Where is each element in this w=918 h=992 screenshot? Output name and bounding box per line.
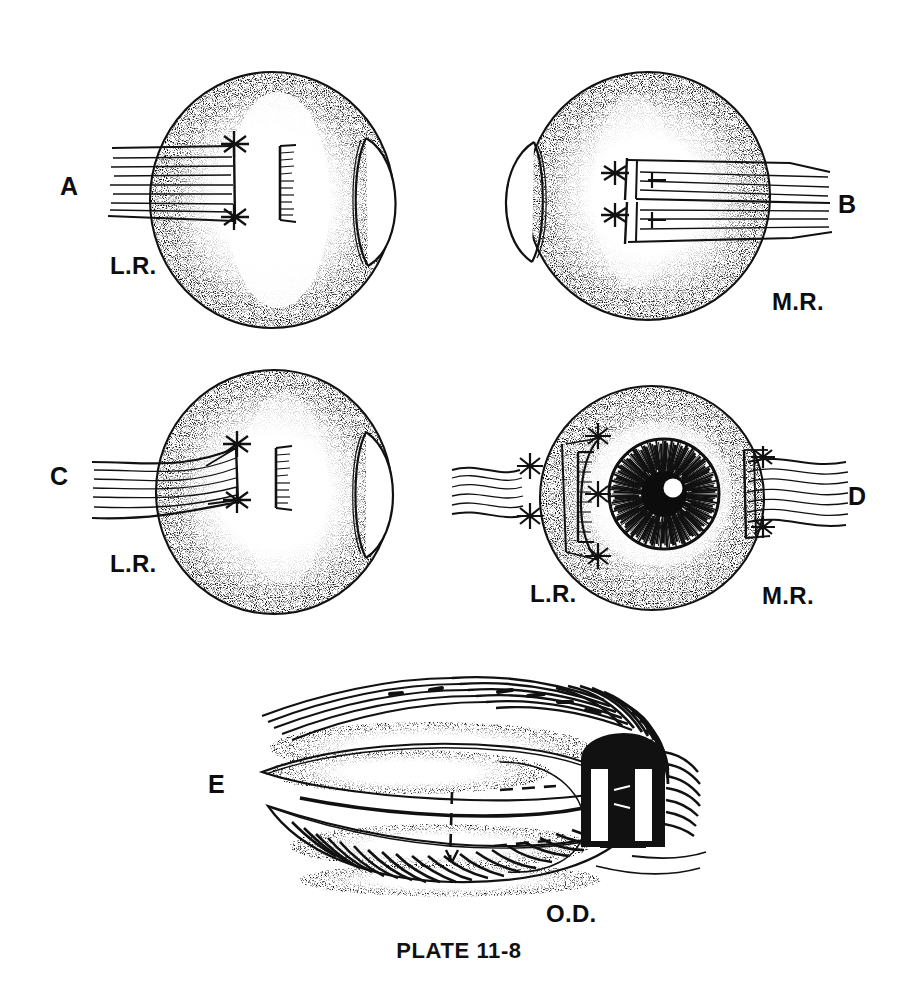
eye-label-e-od: O.D.: [546, 900, 597, 928]
panel-letter-d: D: [848, 482, 866, 511]
plate-illustration: [0, 0, 918, 992]
pupil-highlight-d: [664, 479, 683, 498]
panel-letter-a: A: [60, 172, 78, 201]
muscle-label-d-lr: L.R.: [530, 580, 577, 608]
globe-clear-zone-a: [226, 92, 330, 308]
muscle-label-d-mr: M.R.: [762, 582, 814, 610]
muscle-label-c-lr: L.R.: [110, 550, 157, 578]
plate-caption: PLATE 11-8: [0, 938, 918, 964]
clamp-blade-left: [590, 768, 609, 842]
panel-letter-b: B: [838, 190, 856, 219]
iris-d: [609, 439, 719, 549]
lid-clamp-e: [582, 734, 664, 846]
muscle-label-a-lr: L.R.: [110, 252, 157, 280]
clamp-jaw-center: [614, 766, 630, 838]
muscle-label-b-mr: M.R.: [772, 288, 824, 316]
panel-letter-e: E: [208, 770, 225, 799]
clamp-blade-right: [634, 768, 653, 842]
panel-letter-c: C: [50, 462, 68, 491]
